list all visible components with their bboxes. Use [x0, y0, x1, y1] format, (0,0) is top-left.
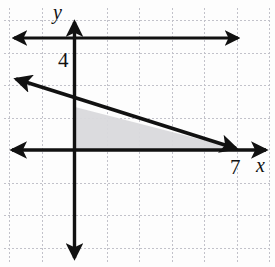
y-intercept-label: 4	[58, 50, 69, 71]
coordinate-plane-figure: y x 4 7	[0, 0, 275, 267]
x-intercept-label: 7	[230, 157, 241, 178]
x-axis-label: x	[256, 155, 265, 175]
y-axis-label: y	[53, 2, 62, 22]
graph-canvas	[0, 0, 275, 267]
